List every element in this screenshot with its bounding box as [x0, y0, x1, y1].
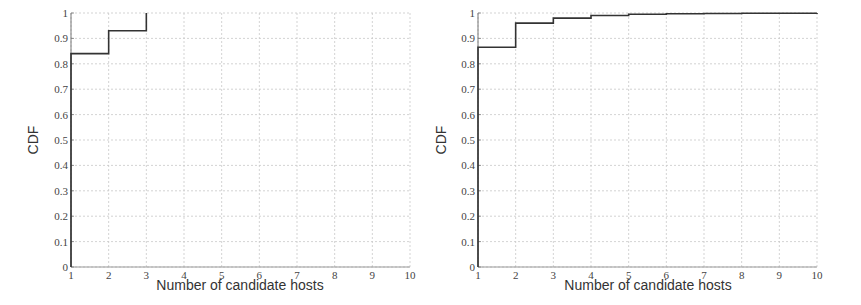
y-tick-label: 0.8 [54, 58, 68, 70]
y-tick-label: 0.1 [461, 236, 475, 248]
y-tick-label: 0 [63, 261, 69, 273]
chart-plot-area-left: 1234567891000.10.20.30.40.50.60.70.80.91… [0, 0, 430, 305]
y-tick-label: 0.5 [54, 134, 68, 146]
x-tick-label: 2 [513, 269, 519, 281]
x-axis-label: Number of candidate hosts [564, 277, 731, 293]
x-tick-label: 1 [475, 269, 481, 281]
y-tick-label: 0.2 [54, 210, 68, 222]
y-tick-label: 0.4 [54, 159, 68, 171]
y-tick-label: 0.3 [461, 185, 475, 197]
y-tick-label: 0.6 [54, 109, 68, 121]
y-tick-label: 1 [470, 7, 476, 19]
cdf-chart-left: 1234567891000.10.20.30.40.50.60.70.80.91… [0, 0, 430, 305]
y-tick-label: 0 [470, 261, 476, 273]
y-tick-label: 0.7 [461, 83, 475, 95]
chart-plot-area-right: 1234567891000.10.20.30.40.50.60.70.80.91… [430, 0, 861, 305]
y-tick-label: 0.1 [54, 236, 68, 248]
x-tick-label: 8 [332, 269, 338, 281]
grid [478, 13, 817, 267]
x-tick-label: 3 [551, 269, 557, 281]
y-tick-label: 0.2 [461, 210, 475, 222]
y-tick-label: 0.8 [461, 58, 475, 70]
y-axis-label: CDF [433, 126, 449, 155]
grid [71, 13, 410, 267]
cdf-chart-right: 1234567891000.10.20.30.40.50.60.70.80.91… [430, 0, 861, 305]
y-tick-label: 0.9 [461, 32, 475, 44]
x-axis-label: Number of candidate hosts [156, 277, 323, 293]
y-tick-label: 0.6 [461, 109, 475, 121]
y-axis-label: CDF [25, 126, 41, 155]
x-tick-label: 10 [405, 269, 417, 281]
x-tick-label: 10 [812, 269, 824, 281]
x-tick-label: 9 [777, 269, 783, 281]
x-tick-label: 8 [739, 269, 745, 281]
y-tick-label: 0.9 [54, 32, 68, 44]
x-tick-label: 9 [370, 269, 376, 281]
x-tick-label: 2 [106, 269, 112, 281]
y-tick-label: 1 [63, 7, 69, 19]
x-tick-label: 1 [68, 269, 74, 281]
y-tick-label: 0.3 [54, 185, 68, 197]
y-tick-label: 0.7 [54, 83, 68, 95]
y-tick-label: 0.5 [461, 134, 475, 146]
x-tick-label: 3 [144, 269, 150, 281]
y-tick-label: 0.4 [461, 159, 475, 171]
